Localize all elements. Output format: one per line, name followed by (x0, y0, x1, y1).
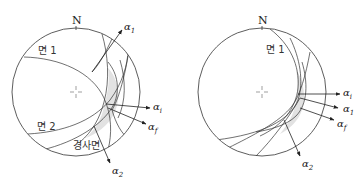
right-arc-d (256, 98, 300, 156)
left-shaded-region (86, 68, 118, 138)
left-arc-d (92, 30, 116, 72)
left-slope-label: 경사면 (73, 139, 100, 151)
left-alphai-label: αi (153, 101, 162, 115)
stereonet-figure: N 면 1 면 2 경사면 α1 αi αf α2 N 면 1 (0, 0, 362, 184)
left-alpha1-label: α1 (124, 21, 135, 35)
right-alpha1-arrow (300, 98, 338, 108)
left-primitive-circle (12, 28, 140, 156)
right-alphaf-label: αf (337, 118, 348, 132)
left-plane1-great-circle (24, 57, 111, 150)
right-alpha2-label: α2 (302, 158, 314, 172)
right-alphai-label: αi (343, 87, 352, 101)
right-alpha1-label: α1 (343, 103, 354, 117)
right-stereonet: N 면 1 αi α1 αf α2 (198, 14, 354, 172)
left-alpha2-label: α2 (112, 165, 124, 179)
left-arc-c (118, 60, 124, 118)
right-north-label: N (258, 14, 268, 27)
left-plane2-label: 면 2 (37, 121, 56, 132)
right-primitive-circle (198, 28, 326, 156)
left-alphaf-label: αf (148, 121, 159, 135)
right-alphaf-arrow (300, 108, 334, 120)
left-north-label: N (72, 14, 82, 27)
left-stereonet: N 면 1 면 2 경사면 α1 αi αf α2 (12, 14, 162, 179)
right-plane1-label: 면 1 (266, 44, 285, 55)
right-center-cross-icon (256, 86, 268, 98)
left-center-cross-icon (70, 86, 82, 98)
left-plane1-label: 면 1 (38, 45, 57, 56)
